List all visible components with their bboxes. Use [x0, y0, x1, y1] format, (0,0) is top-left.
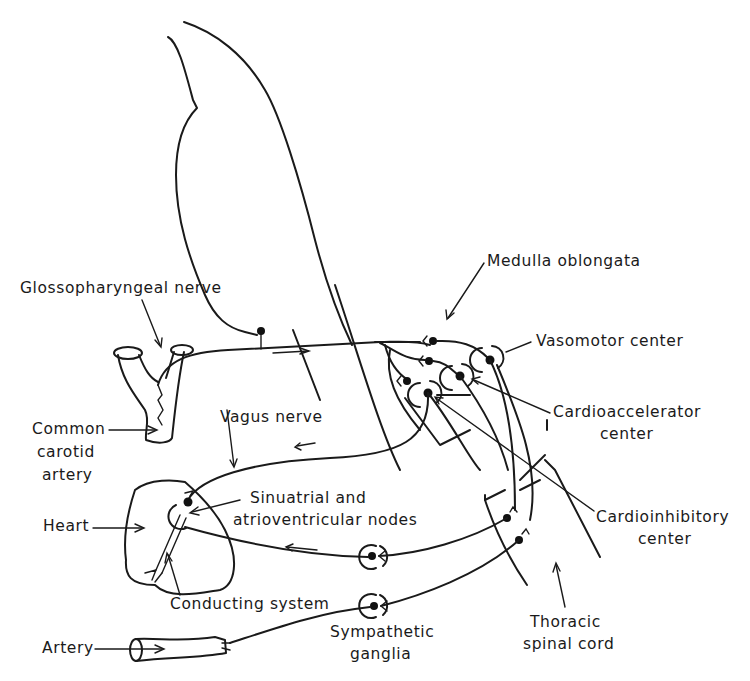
label-vasomotor-center: Vasomotor center	[536, 332, 683, 350]
label-common-carotid-3: artery	[42, 466, 93, 484]
label-cardioaccelerator-1: Cardioaccelerator	[553, 403, 701, 421]
label-medulla-oblongata: Medulla oblongata	[487, 252, 641, 270]
medulla-branches	[375, 342, 425, 430]
label-vagus-nerve: Vagus nerve	[220, 408, 323, 426]
label-cardioinhibitory-2: center	[638, 530, 691, 548]
label-common-carotid-2: carotid	[37, 443, 95, 461]
label-common-carotid-1: Common	[32, 420, 105, 438]
label-glossopharyngeal-nerve: Glossopharyngeal nerve	[20, 279, 222, 297]
vasomotor-center-neuron	[423, 336, 503, 372]
label-sinuatrial-1: Sinuatrial and	[250, 489, 366, 507]
spinal-cord-outline	[293, 285, 400, 470]
heart	[125, 480, 234, 594]
label-thoracic-1: Thoracic	[529, 613, 601, 631]
label-conducting-system: Conducting system	[170, 595, 330, 613]
label-cardioaccelerator-2: center	[600, 425, 653, 443]
label-heart: Heart	[43, 517, 89, 535]
label-sympathetic-2: ganglia	[350, 645, 411, 663]
spinal-segment-marks	[405, 398, 600, 585]
label-sympathetic-1: Sympathetic	[330, 623, 434, 641]
labels: Medulla oblongata Glossopharyngeal nerve…	[20, 252, 729, 663]
label-sinuatrial-2: atrioventricular nodes	[233, 511, 417, 529]
label-thoracic-2: spinal cord	[523, 635, 614, 653]
spinal-descending-tracts	[428, 360, 533, 520]
diagram-canvas: Medulla oblongata Glossopharyngeal nerve…	[0, 0, 750, 681]
label-artery: Artery	[42, 639, 94, 657]
label-cardioinhibitory-1: Cardioinhibitory	[596, 508, 729, 526]
